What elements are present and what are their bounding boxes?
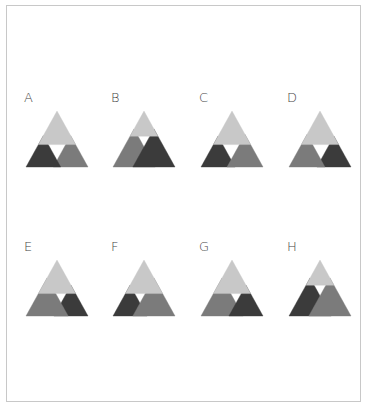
triangle-figure: [199, 109, 269, 171]
option-d[interactable]: D: [287, 90, 367, 180]
triangle-figure: [287, 258, 357, 320]
option-label: D: [287, 90, 297, 105]
option-label: G: [199, 239, 209, 254]
top-piece: [301, 111, 338, 145]
triangle-figure: [24, 258, 94, 320]
top-piece: [213, 111, 250, 145]
option-label: C: [199, 90, 208, 105]
top-piece: [125, 260, 162, 294]
triangle-figure: [111, 109, 181, 171]
option-label: B: [111, 90, 120, 105]
option-c[interactable]: C: [199, 90, 279, 180]
option-b[interactable]: B: [111, 90, 191, 180]
puzzle-frame: [6, 5, 361, 402]
option-label: F: [111, 239, 118, 254]
triangle-figure: [111, 258, 181, 320]
top-piece: [38, 111, 75, 145]
option-a[interactable]: A: [24, 90, 104, 180]
top-piece: [38, 260, 75, 294]
option-h[interactable]: H: [287, 239, 367, 329]
triangle-figure: [287, 109, 357, 171]
triangle-figure: [24, 109, 94, 171]
top-piece: [306, 260, 334, 285]
option-g[interactable]: G: [199, 239, 279, 329]
option-label: E: [24, 239, 32, 254]
option-e[interactable]: E: [24, 239, 104, 329]
top-piece: [213, 260, 250, 294]
option-label: H: [287, 239, 297, 254]
option-f[interactable]: F: [111, 239, 191, 329]
top-piece: [130, 111, 158, 136]
option-label: A: [24, 90, 33, 105]
triangle-figure: [199, 258, 269, 320]
